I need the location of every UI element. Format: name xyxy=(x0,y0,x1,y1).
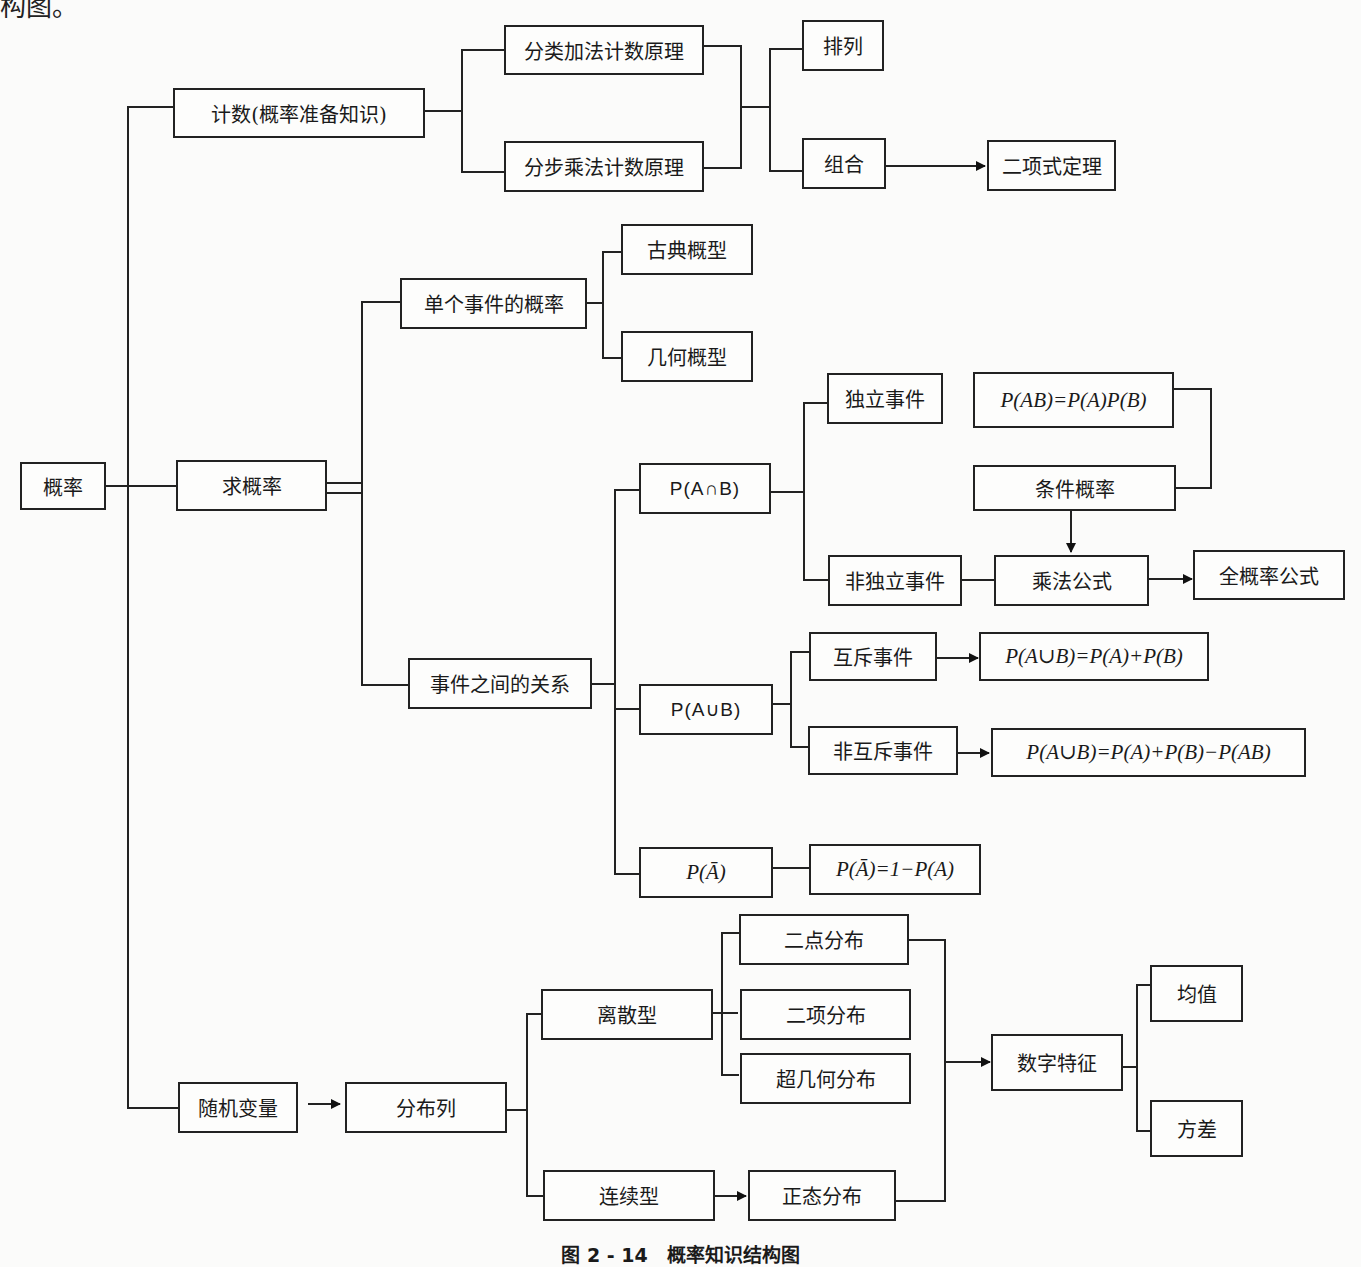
node-geometric-model: 几何概型 xyxy=(621,331,753,382)
node-multiplication-principle: 分步乘法计数原理 xyxy=(504,141,704,192)
node-single-event: 单个事件的概率 xyxy=(400,278,587,329)
node-numeric-features: 数字特征 xyxy=(991,1034,1123,1091)
node-non-exclusive-events: 非互斥事件 xyxy=(808,726,958,775)
node-binomial-distribution: 二项分布 xyxy=(740,989,911,1040)
node-permutation: 排列 xyxy=(802,20,884,71)
node-independent-events: 独立事件 xyxy=(827,373,943,424)
node-binomial-theorem: 二项式定理 xyxy=(987,140,1116,191)
node-continuous: 连续型 xyxy=(543,1170,715,1221)
node-combination: 组合 xyxy=(802,138,886,189)
node-event-relations: 事件之间的关系 xyxy=(408,658,592,709)
node-complement-formula: P(Ā)=1−P(A) xyxy=(809,844,981,895)
node-random-variable: 随机变量 xyxy=(178,1082,298,1133)
node-non-exclusive-formula: P(A∪B)=P(A)+P(B)−P(AB) xyxy=(991,728,1306,777)
node-mean: 均值 xyxy=(1150,965,1243,1022)
node-classical-model: 古典概型 xyxy=(621,224,753,275)
node-multiplication-formula: 乘法公式 xyxy=(994,555,1149,606)
node-root-probability: 概率 xyxy=(20,462,106,510)
node-variance: 方差 xyxy=(1150,1100,1243,1157)
node-p-complement: P(Ā) xyxy=(639,847,773,898)
node-conditional-probability: 条件概率 xyxy=(973,465,1176,511)
node-exclusive-events: 互斥事件 xyxy=(809,632,937,681)
node-find-probability: 求概率 xyxy=(176,460,327,511)
node-counting: 计数(概率准备知识) xyxy=(173,88,425,138)
node-hypergeometric: 超几何分布 xyxy=(740,1053,911,1104)
node-p-intersection: P(A∩B) xyxy=(639,463,771,514)
node-addition-principle: 分类加法计数原理 xyxy=(504,25,704,75)
node-two-point: 二点分布 xyxy=(739,914,909,965)
node-independent-formula: P(AB)=P(A)P(B) xyxy=(973,372,1174,428)
node-total-probability: 全概率公式 xyxy=(1193,550,1345,600)
node-dependent-events: 非独立事件 xyxy=(828,555,962,606)
figure-caption: 图 2 - 14 概率知识结构图 xyxy=(0,1240,1361,1267)
node-exclusive-formula: P(A∪B)=P(A)+P(B) xyxy=(979,632,1209,681)
node-discrete: 离散型 xyxy=(541,989,713,1040)
node-p-union: P(A∪B) xyxy=(639,684,773,735)
node-distribution: 分布列 xyxy=(345,1082,507,1133)
node-normal-distribution: 正态分布 xyxy=(748,1170,896,1221)
